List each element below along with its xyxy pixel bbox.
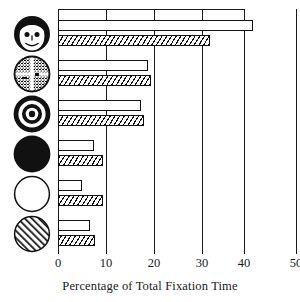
circle-diagonal-hatch-icon bbox=[12, 214, 52, 254]
open-bar bbox=[58, 220, 90, 231]
bar-row bbox=[58, 174, 298, 214]
bullseye-concentric-icon bbox=[12, 94, 52, 134]
x-tick-label: 20 bbox=[148, 256, 161, 271]
x-axis-title: Percentage of Total Fixation Time bbox=[0, 279, 300, 294]
plot-area bbox=[58, 14, 298, 254]
circle-blank-outline-icon bbox=[12, 174, 52, 214]
x-tick-label: 0 bbox=[55, 256, 61, 271]
x-tick-label: 50 bbox=[290, 256, 300, 271]
open-bar bbox=[58, 100, 141, 111]
chart-figure: 0 10 20 30 40 50 Percentage of Total Fix… bbox=[0, 0, 300, 302]
top-axis-rule bbox=[58, 9, 244, 10]
hatched-bar bbox=[58, 235, 95, 246]
hatched-bar bbox=[58, 155, 103, 166]
stimulus-row-2 bbox=[8, 54, 56, 94]
hatched-bar bbox=[58, 195, 103, 206]
open-bar bbox=[58, 60, 148, 71]
hatched-bar bbox=[58, 35, 210, 46]
open-bar bbox=[58, 180, 82, 191]
face-scrambled-icon bbox=[12, 54, 52, 94]
bar-row bbox=[58, 94, 298, 134]
stimulus-row-1 bbox=[8, 14, 56, 54]
stimulus-row-6 bbox=[8, 214, 56, 254]
disc-solid-black-icon bbox=[12, 134, 52, 174]
stimulus-row-3 bbox=[8, 94, 56, 134]
hatched-bar bbox=[58, 75, 151, 86]
x-tick-label: 40 bbox=[238, 256, 251, 271]
open-bar bbox=[58, 140, 94, 151]
bar-row bbox=[58, 54, 298, 94]
x-tick-label: 30 bbox=[196, 256, 209, 271]
bar-row bbox=[58, 14, 298, 54]
x-tick-label: 10 bbox=[100, 256, 113, 271]
stimulus-row-5 bbox=[8, 174, 56, 214]
stimulus-icon-column bbox=[8, 14, 56, 254]
open-bar bbox=[58, 20, 253, 31]
hatched-bar bbox=[58, 115, 144, 126]
face-smiling-icon bbox=[12, 14, 52, 54]
x-axis-tick-labels: 0 10 20 30 40 50 bbox=[58, 256, 300, 272]
bar-row bbox=[58, 134, 298, 174]
bar-row bbox=[58, 214, 298, 254]
stimulus-row-4 bbox=[8, 134, 56, 174]
